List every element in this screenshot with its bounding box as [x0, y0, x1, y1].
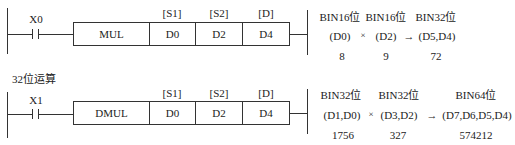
operand-d-cell[interactable]: D4 [242, 22, 290, 46]
type-s2: BIN32位 [379, 90, 420, 101]
operand-label-d: [D] [258, 88, 273, 99]
left-power-rail [7, 92, 8, 138]
type-s2: BIN16位 [366, 12, 407, 23]
operand-label-s1: [S1] [163, 88, 182, 99]
type-s1: BIN32位 [321, 90, 362, 101]
operand-s2-cell[interactable]: D2 [195, 101, 243, 125]
value-d: 574212 [460, 130, 493, 141]
value-s1: 8 [339, 51, 345, 62]
reg-d: (D5,D4) [419, 31, 456, 42]
right-power-rail [307, 10, 308, 55]
reg-s2: (D2) [376, 31, 397, 42]
section-label-32bit: 32位运算 [12, 74, 56, 85]
wire [7, 114, 73, 115]
right-power-rail [307, 89, 308, 134]
operand-s1-cell[interactable]: D0 [149, 22, 196, 46]
operand-d-cell[interactable]: D4 [242, 101, 290, 125]
instruction-cell[interactable]: DMUL [73, 101, 150, 125]
left-power-rail [7, 8, 8, 54]
value-s1: 1756 [332, 130, 354, 141]
value-s2: 9 [383, 51, 389, 62]
operand-label-s2: [S2] [210, 8, 229, 19]
operand-label-s1: [S1] [163, 8, 182, 19]
operand-s1-cell[interactable]: D0 [149, 101, 196, 125]
normally-open-contact-icon[interactable] [32, 109, 39, 119]
normally-open-contact-icon[interactable] [32, 29, 39, 39]
value-s2: 327 [390, 130, 407, 141]
reg-d: (D7,D6,D5,D4) [442, 110, 511, 121]
type-d: BIN64位 [456, 90, 497, 101]
instruction-cell[interactable]: MUL [73, 22, 150, 46]
operand-label-s2: [S2] [210, 88, 229, 99]
multiply-sign: × [368, 110, 373, 119]
operand-s2-cell[interactable]: D2 [195, 22, 243, 46]
operand-label-d: [D] [258, 8, 273, 19]
arrow-icon: → [427, 110, 438, 121]
type-s1: BIN16位 [320, 12, 361, 23]
contact-label: X1 [29, 95, 42, 106]
reg-s1: (D1,D0) [324, 110, 361, 121]
arrow-icon: → [404, 31, 415, 42]
reg-s1: (D0) [330, 31, 351, 42]
reg-s2: (D3,D2) [381, 110, 418, 121]
multiply-sign: × [360, 31, 365, 40]
value-d: 72 [431, 51, 442, 62]
wire [289, 34, 307, 35]
wire [289, 113, 307, 114]
wire [7, 34, 73, 35]
contact-label: X0 [29, 14, 42, 25]
type-d: BIN32位 [416, 12, 457, 23]
